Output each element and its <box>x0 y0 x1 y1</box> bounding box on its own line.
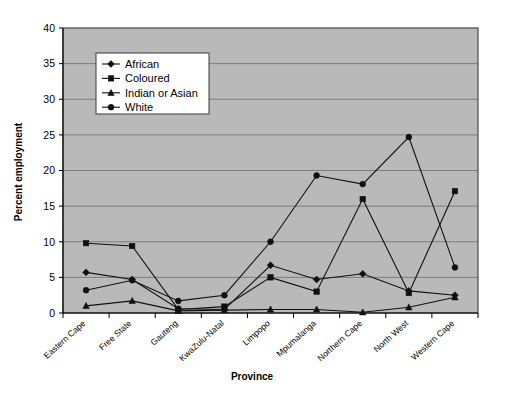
data-point-square <box>268 275 273 280</box>
y-tick-label: 40 <box>43 22 55 34</box>
y-tick-label: 5 <box>49 271 55 283</box>
data-point-circle <box>221 292 227 298</box>
data-point-square <box>452 188 457 193</box>
y-tick-label: 30 <box>43 93 55 105</box>
y-tick-label: 0 <box>49 307 55 319</box>
y-tick-label: 10 <box>43 236 55 248</box>
data-point-circle <box>360 181 366 187</box>
data-point-square <box>108 76 113 81</box>
y-axis-title: Percent employment <box>13 122 24 221</box>
data-point-circle <box>268 239 274 245</box>
data-point-circle <box>406 134 412 140</box>
legend-item-label: Coloured <box>125 72 170 84</box>
y-tick-label: 20 <box>43 164 55 176</box>
legend-item-label: Indian or Asian <box>125 87 198 99</box>
y-tick-label: 35 <box>43 57 55 69</box>
data-point-square <box>83 240 88 245</box>
chart-container: 0510152025303540 Eastern CapeFree StateG… <box>0 0 505 403</box>
y-tick-label: 15 <box>43 200 55 212</box>
data-point-square <box>129 243 134 248</box>
x-axis-title: Province <box>231 371 274 382</box>
data-point-circle <box>108 104 114 110</box>
data-point-square <box>406 290 411 295</box>
data-point-circle <box>452 265 458 271</box>
employment-by-province-line-chart: 0510152025303540 Eastern CapeFree StateG… <box>0 0 505 403</box>
chart-legend: AfricanColouredIndian or AsianWhite <box>96 53 209 114</box>
data-point-square <box>314 289 319 294</box>
data-point-circle <box>175 298 181 304</box>
data-point-circle <box>314 173 320 179</box>
data-point-circle <box>83 287 89 293</box>
data-point-circle <box>129 277 135 283</box>
data-point-square <box>360 196 365 201</box>
y-tick-label: 25 <box>43 129 55 141</box>
legend-item-label: White <box>125 101 153 113</box>
legend-item-label: African <box>125 58 159 70</box>
